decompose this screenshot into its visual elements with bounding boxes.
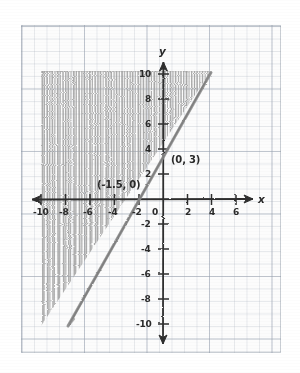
annotation-y-intercept: (0, 3)	[171, 155, 200, 165]
y-tick-label--6: -6	[141, 270, 150, 279]
x-tick-label--6: -6	[83, 208, 92, 217]
annotation-x-intercept: (-1.5, 0)	[97, 180, 140, 190]
x-axis-label: x	[258, 194, 265, 205]
y-tick-label-2: 2	[145, 170, 151, 179]
y-tick-label--8: -8	[141, 295, 150, 304]
y-axis-label: y	[159, 46, 166, 57]
graph-paper-sheet	[21, 25, 281, 353]
x-tick-label--8: -8	[59, 208, 68, 217]
x-tick-label-6: 6	[233, 208, 239, 217]
y-tick-label-4: 4	[145, 145, 151, 154]
x-tick-label-4: 4	[209, 208, 215, 217]
y-tick-label-6: 6	[145, 120, 151, 129]
x-tick-label--2: -2	[132, 208, 141, 217]
y-tick-label-10: 10	[139, 70, 151, 79]
x-tick-label-2: 2	[185, 208, 191, 217]
y-tick-label-8: 8	[145, 95, 151, 104]
x-tick-label--10: -10	[33, 208, 48, 217]
x-tick-label--4: -4	[108, 208, 117, 217]
y-tick-label--2: -2	[141, 220, 150, 229]
y-tick-label--10: -10	[136, 320, 151, 329]
worksheet-page: -10 -8 -6 -4 -2 0 2 4 6 10 8 6 4 2 -2 -4…	[0, 0, 300, 373]
y-tick-label--4: -4	[141, 245, 150, 254]
x-tick-label-0: 0	[152, 208, 158, 217]
